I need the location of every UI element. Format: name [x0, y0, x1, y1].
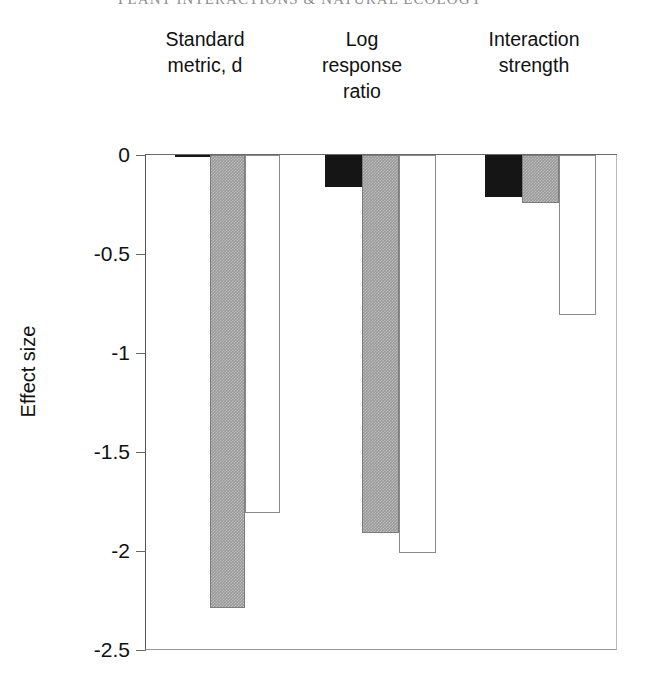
bars-layer — [0, 0, 652, 684]
bar-gray-group-3 — [522, 155, 559, 203]
bar-white-group-3 — [559, 155, 596, 315]
bar-black-group-1 — [175, 155, 210, 157]
bar-white-group-2 — [399, 155, 436, 553]
bar-black-group-3 — [485, 155, 522, 197]
bar-gray-group-1 — [210, 155, 245, 608]
chart-plot-area: 0-0.5-1-1.5-2-2.5 Effect size — [0, 0, 652, 684]
bar-gray-group-2 — [362, 155, 399, 533]
bar-black-group-2 — [325, 155, 362, 187]
bar-white-group-1 — [245, 155, 280, 513]
